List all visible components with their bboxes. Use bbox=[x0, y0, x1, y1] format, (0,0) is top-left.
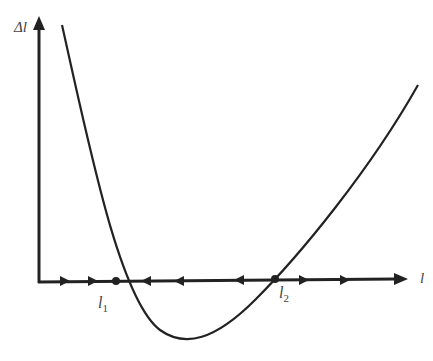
x-axis-label: l bbox=[420, 270, 424, 286]
x-axis-arrowhead-icon bbox=[394, 273, 408, 285]
arrow-left-icon bbox=[174, 276, 184, 286]
equilibrium-point-l2 bbox=[271, 275, 279, 283]
arrow-right-icon bbox=[60, 276, 70, 286]
equilibrium-point-l1 bbox=[112, 277, 120, 285]
arrow-left-icon bbox=[141, 276, 151, 286]
l1-label: l1 bbox=[98, 294, 108, 314]
y-axis-label: Δl bbox=[13, 19, 27, 35]
arrow-right-icon bbox=[88, 276, 98, 286]
arrow-right-icon bbox=[299, 275, 309, 285]
arrow-left-icon bbox=[234, 275, 244, 285]
y-axis-arrowhead-icon bbox=[33, 16, 45, 30]
phase-diagram: Δl l l1 l2 bbox=[0, 0, 433, 361]
delta-l-curve bbox=[62, 25, 418, 339]
l2-label: l2 bbox=[279, 284, 289, 304]
arrow-right-icon bbox=[340, 275, 350, 285]
